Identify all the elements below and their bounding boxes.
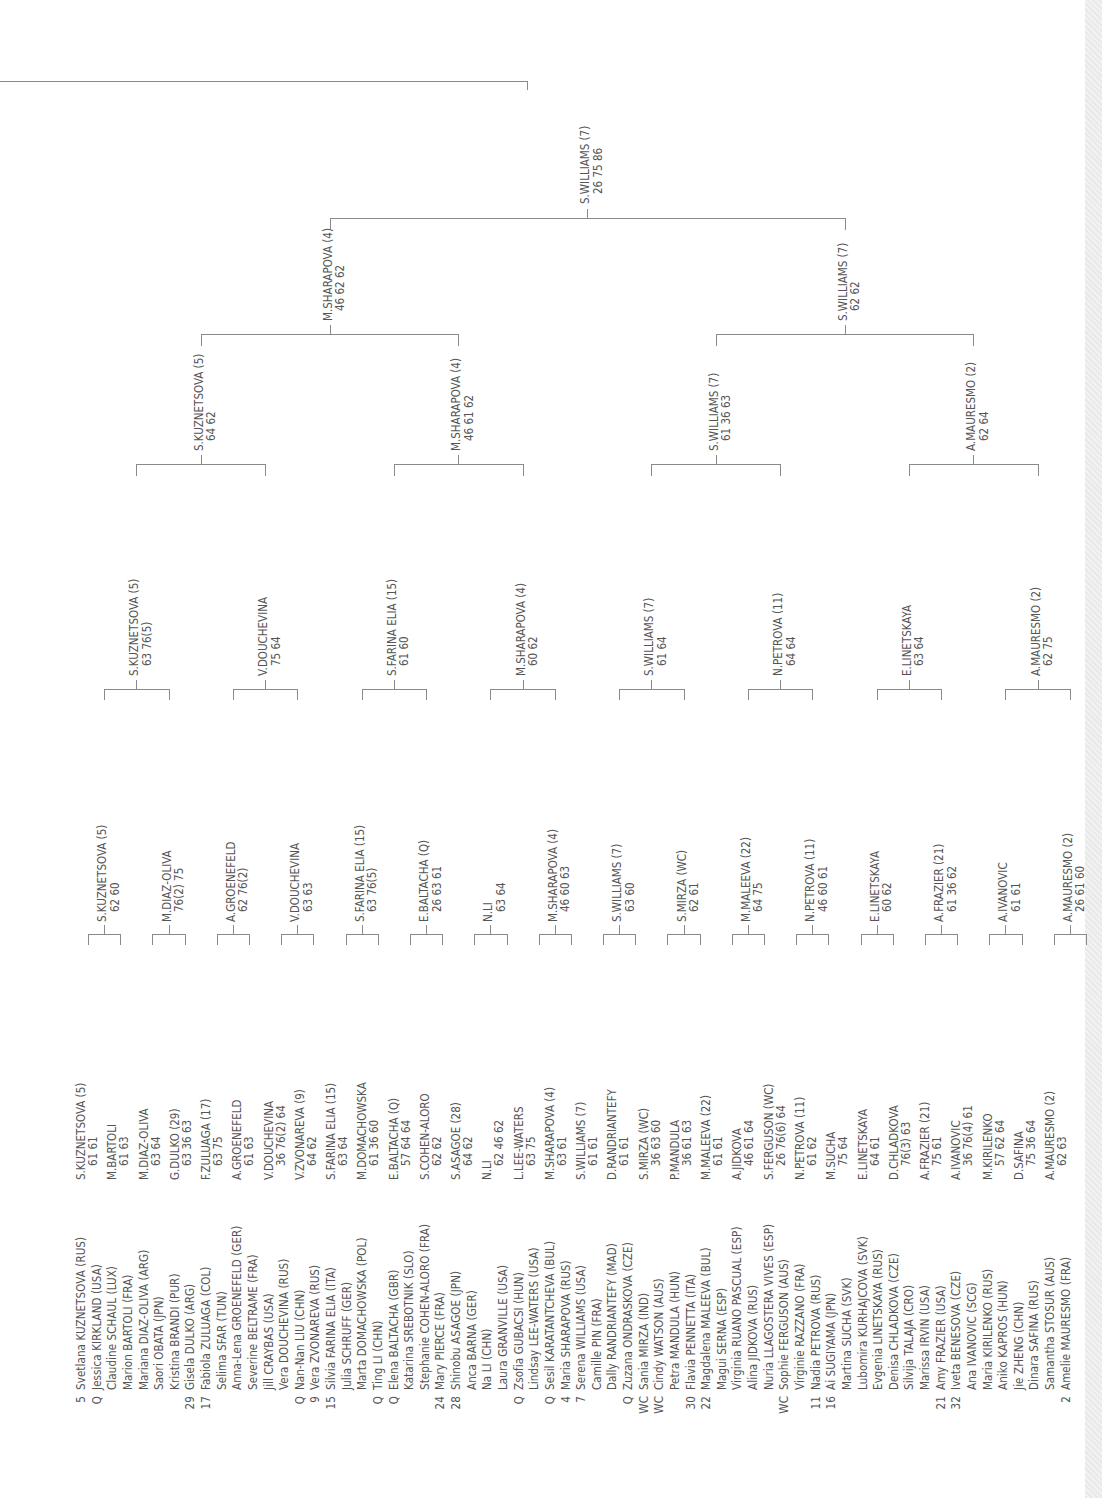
bracket-stem — [1005, 925, 1006, 935]
round3-result: A.IVANOVIC61 61 — [997, 862, 1022, 922]
match-score: 36 63 60 — [650, 1108, 662, 1180]
player-name: Lindsay LEE-WATERS (USA) — [527, 1247, 541, 1390]
bracket-leg — [909, 465, 910, 476]
match-score: 61 62 — [806, 1097, 818, 1180]
match-score: 61 63 — [118, 1124, 130, 1180]
round2-result: A.IVANOVIC36 76(4) 61 — [950, 1105, 974, 1180]
match-score: 63 61 — [556, 1087, 568, 1180]
bracket-stem — [748, 925, 749, 935]
player-entry: 5Svetlana KUZNETSOVA (RUS) — [75, 1237, 88, 1418]
player-name: Camille PIN (FRA) — [590, 1298, 604, 1390]
player-entry: 28Shinobu ASAGOE (JPN) — [450, 1271, 463, 1418]
winner-name: S.WILLIAMS (7) — [578, 126, 592, 204]
player-name: Nadia PETROVA (RUS) — [809, 1275, 823, 1390]
match-score: 63 64 — [150, 1108, 162, 1180]
quarterfinal-result: A.MAURESMO (2)62 64 — [965, 362, 990, 451]
player-entry: Saori OBATA (JPN) — [153, 1296, 166, 1418]
player-name: Evgenia LINETSKAYA (RUS) — [871, 1249, 885, 1390]
bracket-leg — [941, 690, 942, 700]
player-entry: 30Flavia PENNETTA (ITA) — [685, 1274, 698, 1418]
match-score: 61 36 62 — [946, 844, 959, 922]
seed-label: 16 — [825, 1396, 838, 1418]
round2-result: M.MALEEVA (22)61 61 — [700, 1095, 724, 1180]
player-name: Amelie MAURESMO (FRA) — [1059, 1257, 1073, 1390]
player-name: Dinara SAFINA (RUS) — [1027, 1280, 1041, 1390]
round3-result: E.LINETSKAYA60 62 — [869, 851, 894, 922]
round2-result: N.LI62 46 62 — [481, 1120, 505, 1180]
round4-result: E.LINETSKAYA63 64 — [901, 605, 926, 676]
seed-label: 4 — [560, 1396, 573, 1418]
match-score: 63 36 63 — [181, 1109, 193, 1180]
match-score: 64 61 — [869, 1109, 881, 1180]
round4-result: S.FARINA ELIA (15)61 60 — [386, 579, 411, 676]
round4-result: S.WILLIAMS (7)61 64 — [643, 598, 668, 676]
bracket-leg — [346, 935, 347, 945]
match-score: 61 61 — [712, 1095, 724, 1180]
player-name: Ana IVANOVIC (SCG) — [965, 1282, 979, 1390]
player-entry: Aniko KAPROS (HUN) — [997, 1280, 1010, 1418]
seed-label: 24 — [434, 1396, 447, 1418]
player-name: Stephanie COHEN-ALORO (FRA) — [418, 1224, 432, 1390]
bracket-leg — [619, 690, 620, 700]
round3-result: N.LI63 64 — [482, 882, 507, 922]
match-score: 62 64 — [978, 362, 991, 451]
match-score: 64 62 — [462, 1102, 474, 1180]
match-score: 61 64 — [656, 598, 669, 676]
round4-result: M.SHARAPOVA (4)60 62 — [515, 583, 540, 676]
round4-result: A.MAURESMO (2)62 75 — [1030, 587, 1055, 676]
round2-result: D.SAFINA75 36 64 — [1013, 1120, 1037, 1180]
round2-result: G.DULKO (29)63 36 63 — [169, 1109, 193, 1180]
bracket-stem — [909, 680, 910, 690]
bracket-stem — [104, 925, 105, 935]
round3-result: S.KUZNETSOVA (5)62 60 — [96, 825, 121, 922]
player-name: Jill CRAYBAS (USA) — [262, 1293, 276, 1390]
player-entry: Jill CRAYBAS (USA) — [263, 1293, 276, 1418]
round3-result: A.FRAZIER (21)61 36 62 — [933, 844, 958, 922]
bracket-stem — [845, 325, 846, 335]
seed-label: 30 — [685, 1396, 698, 1418]
player-entry: QTing LI (CHN) — [372, 1321, 385, 1418]
winner-name: E.BALTACHA (Q) — [417, 840, 431, 922]
round2-result: S.ASAGOE (28)64 62 — [450, 1102, 474, 1180]
bracket-leg — [507, 935, 508, 945]
bracket-leg — [233, 690, 234, 700]
match-score: 26 76(6) 64 — [775, 1084, 787, 1180]
bracket-stem — [587, 209, 588, 219]
bracket-leg — [523, 465, 524, 476]
final-result: S.WILLIAMS (7)26 75 86 — [579, 126, 604, 204]
player-name: Katarina SREBOTNIK (SLO) — [402, 1250, 416, 1390]
player-name: Vera ZVONAREVA (RUS) — [308, 1265, 322, 1390]
match-score: 64 64 — [785, 593, 798, 676]
round2-result: M.KIRILENKO57 62 64 — [982, 1113, 1006, 1180]
match-score: 62 63 — [1056, 1091, 1068, 1180]
round2-result: S.MIRZA (WC)36 63 60 — [638, 1108, 662, 1180]
player-name: Jie ZHENG (CHN) — [1012, 1302, 1026, 1390]
match-score: 26 63 61 — [431, 840, 444, 922]
match-score: 46 61 62 — [463, 358, 476, 451]
bracket-leg — [555, 690, 556, 700]
player-name: Zuzana ONDRASKOVA (CZE) — [621, 1242, 635, 1390]
player-entry: 16Ai SUGIYAMA (JPN) — [825, 1293, 838, 1418]
player-entry: Dally RANDRIANTEFY (MAD) — [606, 1243, 619, 1418]
match-score: 61 61 — [1010, 862, 1023, 922]
seed-label: 21 — [935, 1396, 948, 1418]
round3-result: E.BALTACHA (Q)26 63 61 — [418, 840, 443, 922]
bracket-leg — [1038, 465, 1039, 476]
match-score: 63 64 — [337, 1083, 349, 1180]
match-score: 63 63 — [302, 843, 315, 922]
match-score: 61 60 — [398, 579, 411, 676]
match-score: 63 76(5) — [141, 579, 154, 676]
bracket-stem — [651, 680, 652, 690]
bracket-leg — [378, 935, 379, 945]
player-entry: Anna-Lena GROENEFELD (GER) — [231, 1226, 244, 1418]
match-score: 61 63 — [243, 1099, 255, 1180]
bracket-leg — [201, 335, 202, 346]
round2-result: A.GROENEFELD61 63 — [231, 1099, 255, 1180]
match-score: 75 64 — [837, 1132, 849, 1180]
round3-result: S.WILLIAMS (7)63 60 — [611, 844, 636, 922]
seed-label: 22 — [700, 1396, 713, 1418]
bracket-leg — [1086, 935, 1087, 945]
round2-result: A.FRAZIER (21)75 61 — [919, 1102, 943, 1180]
match-score: 61 36 60 — [368, 1082, 380, 1180]
bracket-leg — [394, 465, 395, 476]
